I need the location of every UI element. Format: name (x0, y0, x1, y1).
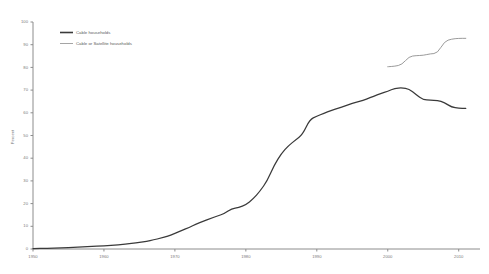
series-line-cable-households (33, 88, 466, 249)
x-axis-ticks: 1950196019701980199020002010 (28, 249, 464, 259)
y-tick-label: 100 (21, 19, 29, 24)
legend-label-cable-households: Cable households (76, 30, 110, 35)
y-axis: 0102030405060708090100 Percent (10, 19, 33, 251)
series-line-cable-or-satellite-households (388, 38, 466, 66)
y-axis-title: Percent (10, 129, 15, 144)
y-tick-label: 60 (23, 110, 28, 115)
y-tick-label: 30 (23, 178, 28, 183)
legend-item-cable-or-satellite-households: Cable or Satellite households (60, 41, 132, 46)
x-tick-label: 1970 (170, 254, 180, 259)
x-axis: 1950196019701980199020002010 (28, 249, 480, 259)
chart-legend: Cable households Cable or Satellite hous… (60, 30, 132, 46)
x-tick-label: 1980 (241, 254, 251, 259)
data-series-group (33, 38, 466, 248)
y-axis-ticks: 0102030405060708090100 (21, 19, 33, 251)
y-tick-label: 0 (26, 246, 29, 251)
y-tick-label: 90 (23, 42, 28, 47)
x-tick-label: 1960 (99, 254, 109, 259)
y-tick-label: 70 (23, 87, 28, 92)
chart-container: 0102030405060708090100 Percent 195019601… (0, 0, 489, 274)
x-tick-label: 1990 (312, 254, 322, 259)
x-tick-label: 2000 (383, 254, 393, 259)
legend-item-cable-households: Cable households (60, 30, 110, 35)
legend-label-cable-or-satellite-households: Cable or Satellite households (76, 41, 132, 46)
y-tick-label: 40 (23, 155, 28, 160)
y-tick-label: 20 (23, 201, 28, 206)
y-tick-label: 80 (23, 65, 28, 70)
x-tick-label: 2010 (454, 254, 464, 259)
x-tick-label: 1950 (28, 254, 38, 259)
y-tick-label: 50 (23, 133, 28, 138)
line-chart: 0102030405060708090100 Percent 195019601… (0, 0, 489, 274)
y-tick-label: 10 (23, 223, 28, 228)
